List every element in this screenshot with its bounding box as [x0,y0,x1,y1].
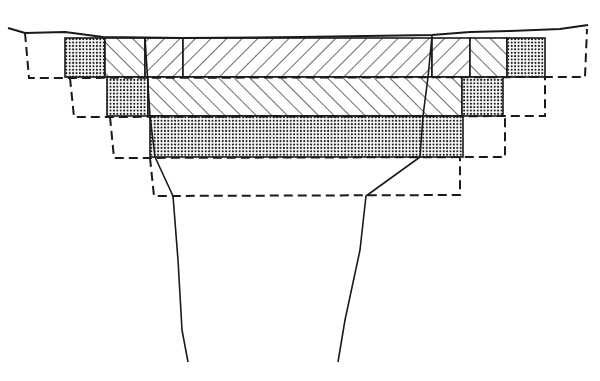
layer-2-cell-stipple [462,77,503,116]
layer-1-cell-hatch-back [470,38,507,77]
layer-2-cell-hatch-back [148,77,462,116]
dashed-step-4 [150,158,460,196]
layer-1-cell-hatch-forward [432,38,470,77]
layer-3 [150,116,463,157]
excavation-cross-section-diagram [0,0,600,381]
layer-3-cell-stipple [150,116,463,157]
layer-2 [107,77,503,116]
ground-line [8,25,588,38]
layer-1-cell-hatch-back [105,38,145,77]
diagram-canvas [0,0,600,381]
layer-1-cell-hatch-forward [145,38,183,77]
layer-1-cell-hatch-forward [183,38,432,77]
layer-1-cell-stipple [65,38,105,77]
ground-surface-line [8,25,588,38]
layer-2-cell-stipple [107,77,148,116]
soil-layers [65,38,545,157]
layer-1 [65,38,545,77]
layer-1-cell-stipple [507,38,545,77]
